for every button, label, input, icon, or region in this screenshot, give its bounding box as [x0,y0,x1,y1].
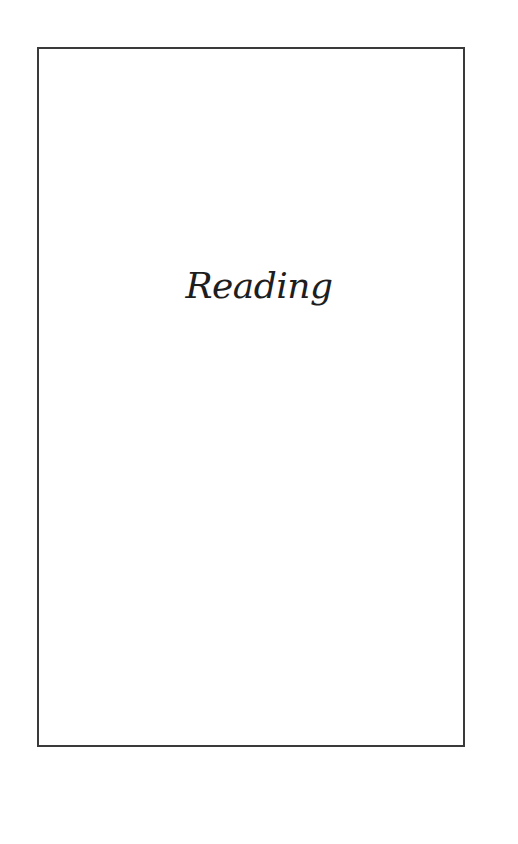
page-frame [37,47,465,747]
page-title: Reading [0,265,518,306]
